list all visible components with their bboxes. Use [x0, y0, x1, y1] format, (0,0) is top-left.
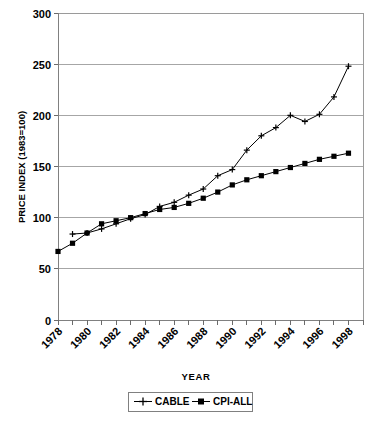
- square-marker-icon: [273, 169, 278, 174]
- chart-legend: CABLE CPI-ALL: [128, 392, 252, 411]
- y-tick-label-250: 250: [33, 59, 51, 71]
- square-marker-icon: [244, 177, 249, 182]
- square-marker-icon: [157, 207, 162, 212]
- x-tick-label-1998: 1998: [329, 325, 355, 351]
- square-marker-icon: [172, 205, 177, 210]
- x-tick-label-1982: 1982: [97, 325, 123, 351]
- y-tick-label-300: 300: [33, 8, 51, 20]
- x-axis-ticks: [58, 320, 363, 325]
- x-tick-label-1986: 1986: [155, 325, 181, 351]
- price-index-chart: 300250200150100500 197819801982198419861…: [0, 0, 372, 422]
- y-tick-label-200: 200: [33, 110, 51, 122]
- y-tick-label-0: 0: [45, 315, 51, 327]
- square-marker-icon: [215, 189, 220, 194]
- square-marker-icon: [331, 154, 336, 159]
- square-marker-icon: [84, 230, 89, 235]
- y-axis-ticks: 300250200150100500: [33, 8, 58, 327]
- x-tick-label-1980: 1980: [68, 325, 94, 351]
- square-marker-icon: [55, 249, 60, 254]
- square-marker-icon: [201, 196, 206, 201]
- x-tick-label-1984: 1984: [126, 324, 152, 350]
- square-marker-icon: [114, 218, 119, 223]
- legend-item-cable: CABLE: [134, 396, 190, 407]
- x-tick-label-1994: 1994: [271, 324, 297, 350]
- x-tick-label-1988: 1988: [184, 325, 210, 351]
- square-marker-icon: [128, 215, 133, 220]
- square-marker-icon: [346, 151, 351, 156]
- x-tick-label-1992: 1992: [242, 325, 268, 351]
- square-marker-icon: [259, 173, 264, 178]
- x-tick-label-1996: 1996: [300, 325, 326, 351]
- square-marker-icon: [230, 182, 235, 187]
- legend-label-cable: CABLE: [155, 396, 190, 407]
- y-tick-label-150: 150: [33, 161, 51, 173]
- square-marker-icon: [288, 165, 293, 170]
- square-marker-icon: [302, 161, 307, 166]
- square-marker-icon: [186, 201, 191, 206]
- y-tick-label-50: 50: [39, 263, 51, 275]
- square-marker-icon: [99, 221, 104, 226]
- x-axis-tick-labels: 1978198019821984198619881990199219941996…: [39, 324, 355, 350]
- square-marker-icon: [198, 399, 204, 405]
- x-tick-label-1990: 1990: [213, 325, 239, 351]
- chart-canvas: 300250200150100500 197819801982198419861…: [0, 0, 372, 422]
- y-tick-label-100: 100: [33, 212, 51, 224]
- y-axis-title: PRICE INDEX (1983=100): [16, 111, 27, 223]
- square-marker-icon: [317, 157, 322, 162]
- legend-label-cpi-all: CPI-ALL: [213, 396, 252, 407]
- square-marker-icon: [70, 241, 75, 246]
- x-axis-title: YEAR: [182, 371, 211, 382]
- x-tick-label-1978: 1978: [39, 325, 65, 351]
- square-marker-icon: [143, 211, 148, 216]
